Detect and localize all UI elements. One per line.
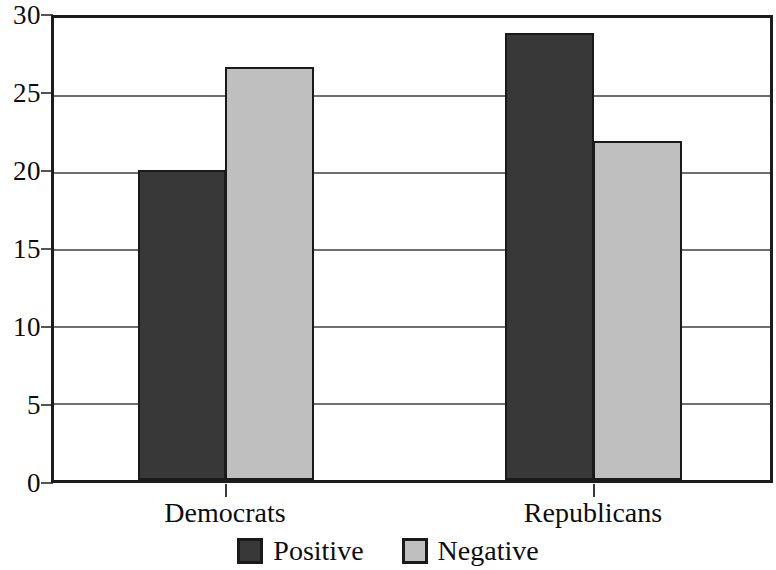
legend-swatch-negative-icon (402, 538, 428, 564)
plot-area (51, 15, 773, 483)
y-axis-tick-label-10: 10 (0, 314, 41, 341)
legend-label-positive: Positive (273, 536, 363, 566)
bar-republicans-negative (593, 141, 682, 480)
y-axis-tick-label-25: 25 (0, 80, 41, 107)
legend-item-negative: Negative (402, 536, 539, 566)
x-axis-label-republicans: Republicans (483, 498, 703, 528)
legend-item-positive: Positive (237, 536, 363, 566)
bar-democrats-positive (138, 170, 226, 480)
x-axis-label-democrats: Democrats (125, 498, 325, 528)
bar-chart: 30 25 20 15 10 5 0 Democrats Repu (0, 0, 776, 570)
legend-label-negative: Negative (438, 536, 539, 566)
gridline-25 (54, 95, 770, 97)
y-axis-tick-label-20: 20 (0, 158, 41, 185)
x-axis-tick-republicans (593, 484, 595, 497)
x-axis-tick-democrats (225, 484, 227, 497)
y-axis-tick-label-30: 30 (0, 2, 41, 29)
y-axis-tick-label-0: 0 (0, 470, 41, 497)
legend-swatch-positive-icon (237, 538, 263, 564)
bar-democrats-negative (225, 67, 314, 480)
legend: Positive Negative (0, 534, 776, 568)
bar-republicans-positive (505, 33, 594, 480)
y-axis-tick-label-5: 5 (0, 392, 41, 419)
y-axis-tick-label-15: 15 (0, 236, 41, 263)
